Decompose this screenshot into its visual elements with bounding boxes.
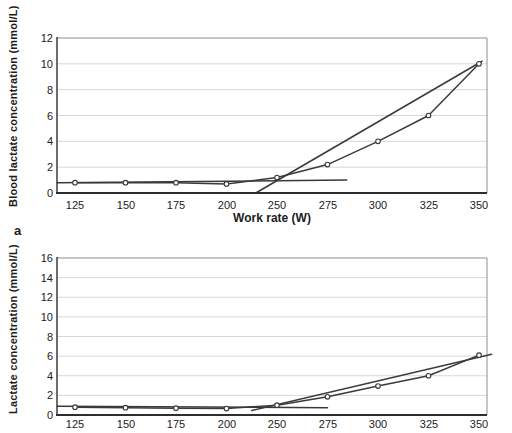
y-tick-label: 2	[27, 389, 53, 402]
data-point-marker	[325, 395, 330, 400]
y-tick-label: 0	[27, 187, 53, 200]
y-tick-label: 10	[27, 58, 53, 71]
x-tick-label: 300	[358, 199, 398, 212]
threshold-fit-line	[252, 354, 492, 410]
top-chart	[56, 37, 487, 194]
data-point-marker	[426, 373, 431, 378]
y-tick-label: 14	[27, 272, 53, 285]
data-point-marker	[426, 113, 431, 118]
y-tick-label: 16	[27, 252, 53, 265]
x-tick-label: 350	[459, 199, 499, 212]
x-tick-label: 250	[257, 199, 297, 212]
y-tick-label: 4	[27, 370, 53, 383]
x-tick-label: 125	[55, 418, 95, 431]
x-tick-label: 200	[207, 199, 247, 212]
data-point-marker	[224, 406, 229, 411]
x-axis-title-top: Work rate (W)	[202, 211, 342, 225]
y-tick-label: 6	[27, 350, 53, 363]
x-tick-label: 150	[106, 199, 146, 212]
data-point-marker	[275, 175, 280, 180]
y-tick-label: 4	[27, 135, 53, 148]
y-tick-label: 12	[27, 32, 53, 45]
x-tick-label: 325	[409, 199, 449, 212]
y-tick-label: 10	[27, 311, 53, 324]
y-tick-label: 6	[27, 110, 53, 123]
x-tick-label: 300	[358, 418, 398, 431]
x-tick-label: 275	[308, 199, 348, 212]
x-tick-label: 125	[55, 199, 95, 212]
data-point-marker	[376, 139, 381, 144]
y-tick-label: 0	[27, 409, 53, 422]
data-point-marker	[123, 405, 128, 410]
y-tick-label: 8	[27, 331, 53, 344]
panel-label-a: a	[14, 223, 21, 238]
x-tick-label: 200	[207, 418, 247, 431]
data-point-marker	[73, 405, 78, 410]
x-tick-label: 325	[409, 418, 449, 431]
data-point-marker	[376, 384, 381, 389]
y-tick-label: 12	[27, 291, 53, 304]
data-curve	[75, 355, 479, 408]
y-tick-label: 8	[27, 84, 53, 97]
bottom-chart	[56, 257, 492, 416]
x-tick-label: 175	[156, 199, 196, 212]
x-tick-label: 150	[106, 418, 146, 431]
data-point-marker	[73, 180, 78, 185]
data-point-marker	[477, 62, 482, 67]
x-tick-label: 275	[308, 418, 348, 431]
y-axis-title-bottom: Lactate concentration (mmol/L)	[7, 244, 19, 414]
data-point-marker	[174, 406, 179, 411]
y-axis-title-top: Blood lactate concentration (mmol/L)	[7, 5, 19, 207]
data-point-marker	[275, 403, 280, 408]
data-curve	[75, 64, 479, 184]
data-point-marker	[123, 180, 128, 185]
x-tick-label: 175	[156, 418, 196, 431]
data-point-marker	[477, 353, 482, 358]
data-point-marker	[325, 162, 330, 167]
threshold-fit-line	[256, 61, 482, 193]
data-point-marker	[224, 182, 229, 187]
y-tick-label: 2	[27, 161, 53, 174]
lactate-threshold-figure: Blood lactate concentration (mmol/L) Lac…	[0, 0, 512, 433]
data-point-marker	[174, 180, 179, 185]
x-tick-label: 350	[459, 418, 499, 431]
x-tick-label: 250	[257, 418, 297, 431]
